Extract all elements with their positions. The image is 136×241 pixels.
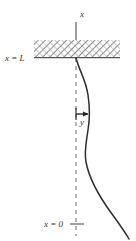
fixed-support-hatch [34,40,120,57]
axis-top-label: x [79,9,84,19]
deflected-beam-curve [76,58,129,239]
figure-container: x x = L y x = 0 [0,0,136,241]
wall-label: x = L [4,53,25,63]
beam-deflection-figure: x x = L y x = 0 [0,0,136,241]
base-label: x = 0 [43,219,64,229]
deflection-label: y [79,117,84,127]
